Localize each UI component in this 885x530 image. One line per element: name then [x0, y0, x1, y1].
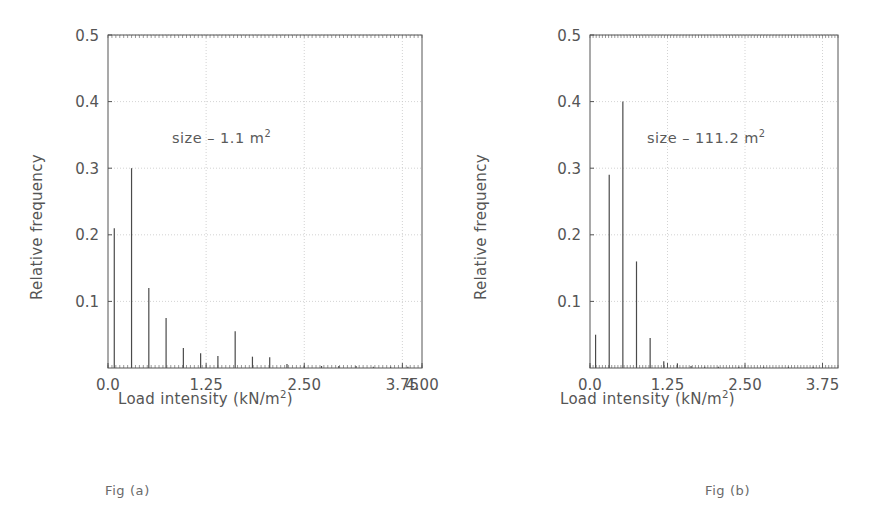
annotation-b-value: 111.2 — [695, 130, 739, 146]
y-axis-tick-label: 0.5 — [557, 27, 581, 45]
x-axis-label-a: Load intensity (kN/m2) — [118, 390, 293, 408]
x-axis-label-a-tail: ) — [287, 390, 293, 408]
x-axis-tick-label: 0.0 — [96, 376, 120, 394]
y-axis-tick-label: 0.4 — [75, 93, 99, 111]
annotation-b-unit: m — [744, 130, 759, 146]
y-axis-tick-label: 0.3 — [557, 160, 581, 178]
y-axis-tick-label: 0.3 — [75, 160, 99, 178]
x-axis-label-b-tail: ) — [729, 390, 735, 408]
caption-b: Fig (b) — [705, 483, 750, 498]
annotation-b-unit-exponent: 2 — [759, 128, 766, 139]
annotation-a-value: 1.1 — [220, 130, 245, 146]
figure-a: 0.10.20.30.40.50.01.252.503.754.00 Relat… — [0, 0, 443, 530]
annotation-a-unit-exponent: 2 — [264, 128, 271, 139]
annotation-b-dash: – — [682, 130, 690, 146]
x-axis-label-b-main: Load intensity (kN/m — [560, 390, 722, 408]
axis-frame — [108, 35, 422, 368]
annotation-a: size – 1.1 m2 — [172, 130, 271, 146]
x-axis-label-a-main: Load intensity (kN/m — [118, 390, 280, 408]
x-axis-label-b-exponent: 2 — [722, 389, 729, 400]
y-axis-label-b: Relative frequency — [472, 154, 490, 300]
y-axis-tick-label: 0.1 — [557, 293, 581, 311]
y-axis-tick-label: 0.4 — [557, 93, 581, 111]
x-axis-tick-label: 3.75 — [806, 376, 839, 394]
y-axis-label-a: Relative frequency — [28, 154, 46, 300]
x-axis-tick-label: 4.00 — [405, 376, 438, 394]
y-axis-tick-label: 0.2 — [75, 226, 99, 244]
x-axis-label-b: Load intensity (kN/m2) — [560, 390, 735, 408]
figure-b: 0.10.20.30.40.50.01.252.503.75 Relative … — [442, 0, 885, 530]
annotation-a-dash: – — [207, 130, 215, 146]
y-axis-tick-label: 0.1 — [75, 293, 99, 311]
chart-plot-b: 0.10.20.30.40.50.01.252.503.75 — [442, 0, 885, 400]
annotation-a-unit: m — [250, 130, 265, 146]
axis-frame — [590, 35, 838, 368]
annotation-b: size – 111.2 m2 — [647, 130, 766, 146]
annotation-b-prefix: size — [647, 130, 677, 146]
x-axis-label-a-exponent: 2 — [280, 389, 287, 400]
chart-plot-a: 0.10.20.30.40.50.01.252.503.754.00 — [0, 0, 443, 400]
y-axis-tick-label: 0.5 — [75, 27, 99, 45]
caption-a: Fig (a) — [105, 483, 150, 498]
annotation-a-prefix: size — [172, 130, 202, 146]
y-axis-tick-label: 0.2 — [557, 226, 581, 244]
